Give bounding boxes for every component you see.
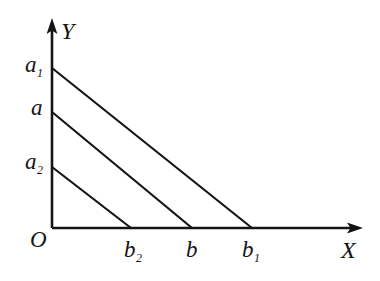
x-axis-label: X [341,238,356,262]
math-figure: a1 a a2 O b2 b b1 Y X [0,0,380,281]
line-a2-b2 [52,167,131,228]
label-a2-base: a [25,149,37,174]
y-axis-label: Y [61,19,74,43]
label-origin-text: O [30,227,47,252]
label-b2-base: b [124,237,136,262]
label-a2: a2 [25,150,43,173]
label-b: b [186,238,198,261]
label-a2-subscript: 2 [37,163,43,177]
label-a1-subscript: 1 [37,66,43,80]
label-b1-base: b [242,237,254,262]
label-b-base: b [186,237,198,262]
label-a1: a1 [25,53,43,76]
label-a: a [31,96,43,119]
line-a-b [52,112,192,228]
label-b2-subscript: 2 [136,251,142,265]
label-b1: b1 [242,238,260,261]
line-a1-b1 [52,68,252,228]
label-b1-subscript: 1 [254,251,260,265]
label-origin: O [30,228,47,251]
label-a1-base: a [25,52,37,77]
label-a-base: a [31,95,43,120]
label-b2: b2 [124,238,142,261]
